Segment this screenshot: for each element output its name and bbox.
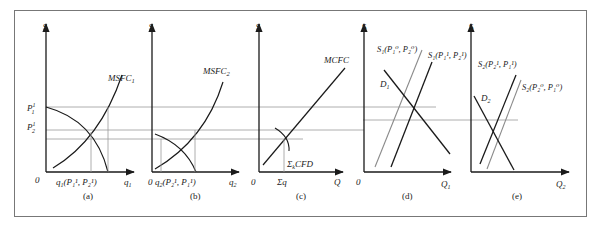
price-guide-lines bbox=[46, 107, 518, 139]
cfd-label: ΣkCFD bbox=[286, 159, 314, 170]
s1-old-label: S₁(P₁⁰, P₂⁰) bbox=[377, 44, 417, 54]
sigma-q-label: Σq bbox=[276, 177, 287, 187]
dollar-label: $ bbox=[469, 22, 474, 32]
s2-new-label: S₂(P₂¹, P₁¹) bbox=[478, 59, 517, 69]
x-axis-label: Q2 bbox=[556, 179, 566, 190]
caption-c: (c) bbox=[296, 191, 306, 201]
q1-quantity-label: q1(P₁¹, P₂¹) bbox=[56, 177, 97, 188]
panel-d: $ S₁(P₁⁰, P₂⁰) S₁(P₁¹, P₂¹) D1 0 Q1 (d) bbox=[356, 22, 467, 201]
marginal-revenue-curve bbox=[46, 107, 108, 172]
x-axis-label: q1 bbox=[124, 177, 132, 188]
mcfc-curve bbox=[263, 68, 345, 165]
s2-old-supply-curve bbox=[487, 80, 521, 169]
dollar-label: $ bbox=[362, 22, 367, 32]
msfc1-label: MSFC1 bbox=[107, 73, 135, 84]
d1-label: D1 bbox=[379, 79, 390, 90]
panel-e: $ S₂(P₂¹, P₁¹) S₂(P₂⁰, P₁⁰) D2 Q2 (e) bbox=[469, 22, 569, 201]
dollar-label: $ bbox=[256, 22, 261, 32]
panel-a: $ MSFC1 P11 P12 0 q1(P₁¹, P₂¹) q1 (a) bbox=[26, 22, 135, 201]
caption-d: (d) bbox=[402, 191, 413, 201]
s1-new-label: S₁(P₁¹, P₂¹) bbox=[428, 50, 467, 60]
caption-b: (b) bbox=[190, 191, 201, 201]
panel-b: $ MSFC2 0 q2(P₂¹, P₁¹) q2 (b) bbox=[148, 22, 239, 201]
origin-label: 0 bbox=[35, 175, 40, 185]
panel-c: $ MCFC ΣkCFD 0 Σq Q (c) bbox=[251, 22, 350, 201]
origin-label: 0 bbox=[251, 177, 256, 187]
mcfc-label: MCFC bbox=[323, 55, 350, 65]
origin-label: 0 bbox=[356, 177, 361, 187]
msfc2-label: MSFC2 bbox=[202, 66, 231, 77]
s2-old-label: S₂(P₂⁰, P₁⁰) bbox=[522, 82, 562, 92]
msfc1-curve bbox=[53, 75, 122, 168]
d1-demand-curve bbox=[384, 70, 450, 154]
s2-new-supply-curve bbox=[480, 75, 516, 164]
p1-label: P11 bbox=[26, 102, 36, 115]
dollar-label: $ bbox=[43, 22, 48, 32]
p2-label: P12 bbox=[26, 121, 36, 134]
x-axis-label: Q1 bbox=[441, 179, 451, 190]
x-axis-label: q2 bbox=[229, 177, 237, 188]
d2-demand-curve bbox=[474, 96, 514, 170]
caption-e: (e) bbox=[512, 191, 522, 201]
d2-label: D2 bbox=[480, 93, 491, 104]
origin-label: 0 bbox=[148, 177, 153, 187]
caption-a: (a) bbox=[83, 191, 93, 201]
x-axis-label: Q bbox=[334, 177, 341, 187]
s1-new-supply-curve bbox=[391, 62, 432, 167]
q2-quantity-label: q2(P₂¹, P₁¹) bbox=[155, 177, 196, 188]
figure-canvas: $ MSFC1 P11 P12 0 q1(P₁¹, P₂¹) q1 (a) $ … bbox=[0, 0, 602, 232]
dollar-label: $ bbox=[149, 22, 154, 32]
msfc2-curve bbox=[155, 82, 223, 169]
